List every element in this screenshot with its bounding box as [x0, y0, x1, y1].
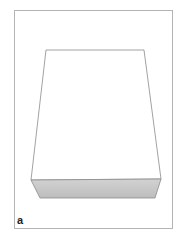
box-front-face [31, 179, 161, 198]
box-diagram [0, 0, 188, 237]
box-top-face [31, 50, 161, 180]
panel-label: a [17, 215, 23, 226]
